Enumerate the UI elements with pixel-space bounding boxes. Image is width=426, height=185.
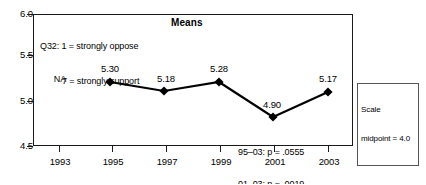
pvalue-annotation: 95–03: p = .0555 01–03: p = .0019 xyxy=(238,126,304,184)
chart-figure: 6.0 5.5 5.0 4.5 1993 1995 1997 1999 2001… xyxy=(0,0,426,184)
scale-midpoint-box-line2: midpoint = 4.0 xyxy=(361,134,415,144)
scale-midpoint-box-line1: Scale xyxy=(361,105,415,115)
question-scale-note: Q32: 1 = strongly oppose 7 = strongly su… xyxy=(40,18,139,110)
pvalue-annotation-line2: 01–03: p = .0019 xyxy=(238,179,304,185)
value-label-2001: 4.90 xyxy=(252,100,292,110)
pvalue-annotation-line1: 95–03: p = .0555 xyxy=(238,147,304,158)
marker-2003 xyxy=(323,87,332,96)
marker-1997 xyxy=(159,86,168,95)
question-scale-note-line1: Q32: 1 = strongly oppose xyxy=(40,41,139,53)
chart-title: Means xyxy=(171,17,203,29)
question-scale-note-line2: 7 = strongly support xyxy=(40,76,139,88)
value-label-2003: 5.17 xyxy=(308,74,348,84)
value-label-1997: 5.18 xyxy=(146,74,186,84)
value-label-1999: 5.28 xyxy=(199,64,239,74)
scale-midpoint-box: Scale midpoint = 4.0 xyxy=(357,83,419,166)
series-line xyxy=(110,82,328,117)
